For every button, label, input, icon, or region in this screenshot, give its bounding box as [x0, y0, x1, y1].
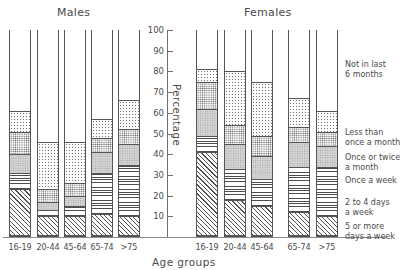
- bar-segment: [252, 29, 272, 83]
- bar-segment: [225, 170, 245, 201]
- bar-females-45-64[interactable]: [251, 30, 273, 237]
- bar-segment: [197, 83, 217, 110]
- bar-segment: [197, 70, 217, 82]
- bar-segment: [197, 153, 217, 236]
- bar-segment: [197, 29, 217, 70]
- bar-segment: [65, 217, 85, 236]
- bar-segment: [225, 29, 245, 72]
- x-tick-label-males-65-74: 65-74: [87, 243, 117, 252]
- bar-males-20-44[interactable]: [37, 30, 59, 237]
- bar-segment: [225, 145, 245, 170]
- bar-segment: [10, 29, 30, 112]
- y-axis-tick-label: 40: [140, 149, 164, 159]
- bar-segment: [317, 217, 337, 236]
- bar-segment: [197, 110, 217, 137]
- bar-segment: [317, 133, 337, 147]
- legend-label-line2: once a month: [345, 138, 400, 148]
- bar-segment: [317, 112, 337, 133]
- y-axis-label: Percentage: [171, 84, 182, 146]
- y-axis-tick: [167, 92, 173, 93]
- bar-segment: [92, 139, 112, 153]
- bar-segment: [10, 133, 30, 156]
- bar-segment: [317, 168, 337, 218]
- bar-segment: [252, 137, 272, 158]
- x-tick-label-males-16-19: 16-19: [5, 243, 35, 252]
- bar-segment: [65, 29, 85, 143]
- x-tick-label-males->75: >75: [114, 243, 144, 252]
- x-tick-label-females-16-19: 16-19: [192, 243, 222, 252]
- bar-segment: [119, 101, 139, 130]
- bar-males->75[interactable]: [118, 30, 140, 237]
- bar-segment: [252, 157, 272, 180]
- bar-females->75[interactable]: [316, 30, 338, 237]
- bar-segment: [92, 174, 112, 215]
- x-tick-label-females->75: >75: [312, 243, 342, 252]
- bar-males-65-74[interactable]: [91, 30, 113, 237]
- legend-label-3: Once a week: [345, 176, 397, 186]
- y-axis-tick-label: 70: [140, 87, 164, 97]
- y-axis-tick-label: 50: [140, 129, 164, 139]
- bar-segment: [289, 128, 309, 142]
- legend-label-line2: a month: [345, 163, 400, 173]
- bar-segment: [252, 180, 272, 207]
- bar-segment: [10, 174, 30, 191]
- bar-segment: [225, 72, 245, 126]
- bar-segment: [65, 184, 85, 196]
- bar-segment: [92, 215, 112, 236]
- bar-males-45-64[interactable]: [64, 30, 86, 237]
- bar-segment: [119, 217, 139, 236]
- x-tick-label-males-45-64: 45-64: [60, 243, 90, 252]
- y-axis-tick: [167, 196, 173, 197]
- bar-segment: [10, 112, 30, 133]
- legend-label-1: Less thanonce a month: [345, 128, 400, 147]
- bar-segment: [38, 190, 58, 202]
- bar-segment: [92, 153, 112, 174]
- x-axis-line: [3, 237, 387, 238]
- bar-segment: [317, 29, 337, 112]
- y-axis-tick: [167, 134, 173, 135]
- bar-segment: [289, 213, 309, 236]
- bar-males-16-19[interactable]: [9, 30, 31, 237]
- x-tick-label-males-20-44: 20-44: [33, 243, 63, 252]
- legend-label-line1: 5 or more: [345, 222, 395, 232]
- legend-label-line2: days a week: [345, 232, 395, 242]
- y-axis-tick: [167, 51, 173, 52]
- bar-segment: [225, 126, 245, 145]
- y-axis-tick: [167, 154, 173, 155]
- panel-title-females: Females: [244, 6, 292, 19]
- bar-females-65-74[interactable]: [288, 30, 310, 237]
- bar-segment: [289, 29, 309, 99]
- x-tick-label-females-20-44: 20-44: [220, 243, 250, 252]
- bar-segment: [289, 143, 309, 168]
- bar-segment: [10, 155, 30, 174]
- y-axis-tick: [167, 175, 173, 176]
- legend-label-line1: Once a week: [345, 176, 397, 186]
- bar-segment: [252, 207, 272, 236]
- bar-segment: [225, 201, 245, 236]
- y-axis-tick: [167, 71, 173, 72]
- bar-segment: [119, 145, 139, 166]
- bar-segment: [38, 211, 58, 217]
- y-axis-tick: [167, 30, 173, 31]
- y-axis-tick-label: 100: [140, 25, 164, 35]
- panel-title-males: Males: [57, 6, 90, 19]
- bar-segment: [38, 203, 58, 211]
- bar-segment: [65, 197, 85, 207]
- bar-segment: [38, 217, 58, 236]
- legend-label-line1: 2 to 4 days: [345, 198, 390, 208]
- y-axis-tick-label: 60: [140, 108, 164, 118]
- bar-segment: [65, 207, 85, 217]
- bar-females-16-19[interactable]: [196, 30, 218, 237]
- bar-segment: [119, 130, 139, 144]
- bar-segment: [38, 143, 58, 191]
- bar-segment: [289, 168, 309, 214]
- bar-females-20-44[interactable]: [224, 30, 246, 237]
- bar-segment: [65, 143, 85, 184]
- x-axis-title: Age groups: [152, 256, 216, 268]
- y-axis-tick-label: 10: [140, 211, 164, 221]
- legend-label-0: Not in last6 months: [345, 60, 386, 79]
- bar-segment: [289, 99, 309, 128]
- legend-label-line2: a week: [345, 208, 390, 218]
- y-axis-tick: [167, 216, 173, 217]
